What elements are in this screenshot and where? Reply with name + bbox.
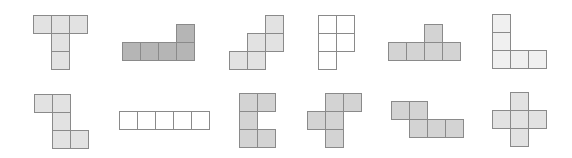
- grid-cell: [155, 111, 174, 130]
- grid-cell: [492, 110, 511, 129]
- grid-cell: [239, 129, 258, 148]
- grid-cell: [239, 111, 258, 130]
- grid-cell: [424, 24, 443, 43]
- grid-cell: [119, 111, 138, 130]
- grid-cell: [51, 51, 70, 70]
- grid-cell: [442, 42, 461, 61]
- grid-cell: [510, 110, 529, 129]
- grid-cell: [445, 119, 464, 138]
- grid-cell: [51, 33, 70, 52]
- grid-cell: [229, 51, 248, 70]
- grid-cell: [247, 51, 266, 70]
- grid-cell: [307, 111, 326, 130]
- grid-cell: [137, 111, 156, 130]
- grid-cell: [173, 111, 192, 130]
- grid-cell: [492, 14, 511, 33]
- grid-cell: [427, 119, 446, 138]
- grid-cell: [70, 130, 89, 149]
- grid-cell: [34, 94, 53, 113]
- grid-cell: [409, 101, 428, 120]
- grid-cell: [510, 50, 529, 69]
- grid-cell: [265, 33, 284, 52]
- grid-cell: [176, 42, 195, 61]
- grid-cell: [69, 15, 88, 34]
- grid-cell: [158, 42, 177, 61]
- grid-cell: [318, 51, 337, 70]
- grid-cell: [528, 110, 547, 129]
- grid-cell: [33, 15, 52, 34]
- grid-cell: [257, 93, 276, 112]
- grid-cell: [176, 24, 195, 43]
- grid-cell: [424, 42, 443, 61]
- grid-cell: [510, 92, 529, 111]
- grid-cell: [492, 32, 511, 51]
- grid-cell: [409, 119, 428, 138]
- grid-cell: [122, 42, 141, 61]
- grid-cell: [325, 93, 344, 112]
- grid-cell: [510, 128, 529, 147]
- grid-cell: [247, 33, 266, 52]
- grid-cell: [336, 33, 355, 52]
- grid-cell: [52, 94, 71, 113]
- grid-cell: [343, 93, 362, 112]
- grid-cell: [528, 50, 547, 69]
- grid-cell: [318, 15, 337, 34]
- grid-cell: [391, 101, 410, 120]
- grid-cell: [492, 50, 511, 69]
- grid-cell: [325, 129, 344, 148]
- grid-cell: [191, 111, 210, 130]
- grid-cell: [265, 15, 284, 34]
- grid-cell: [257, 129, 276, 148]
- grid-cell: [406, 42, 425, 61]
- grid-cell: [325, 111, 344, 130]
- grid-cell: [239, 93, 258, 112]
- grid-cell: [318, 33, 337, 52]
- grid-cell: [52, 112, 71, 131]
- grid-cell: [140, 42, 159, 61]
- grid-cell: [336, 15, 355, 34]
- grid-cell: [51, 15, 70, 34]
- grid-cell: [388, 42, 407, 61]
- grid-cell: [52, 130, 71, 149]
